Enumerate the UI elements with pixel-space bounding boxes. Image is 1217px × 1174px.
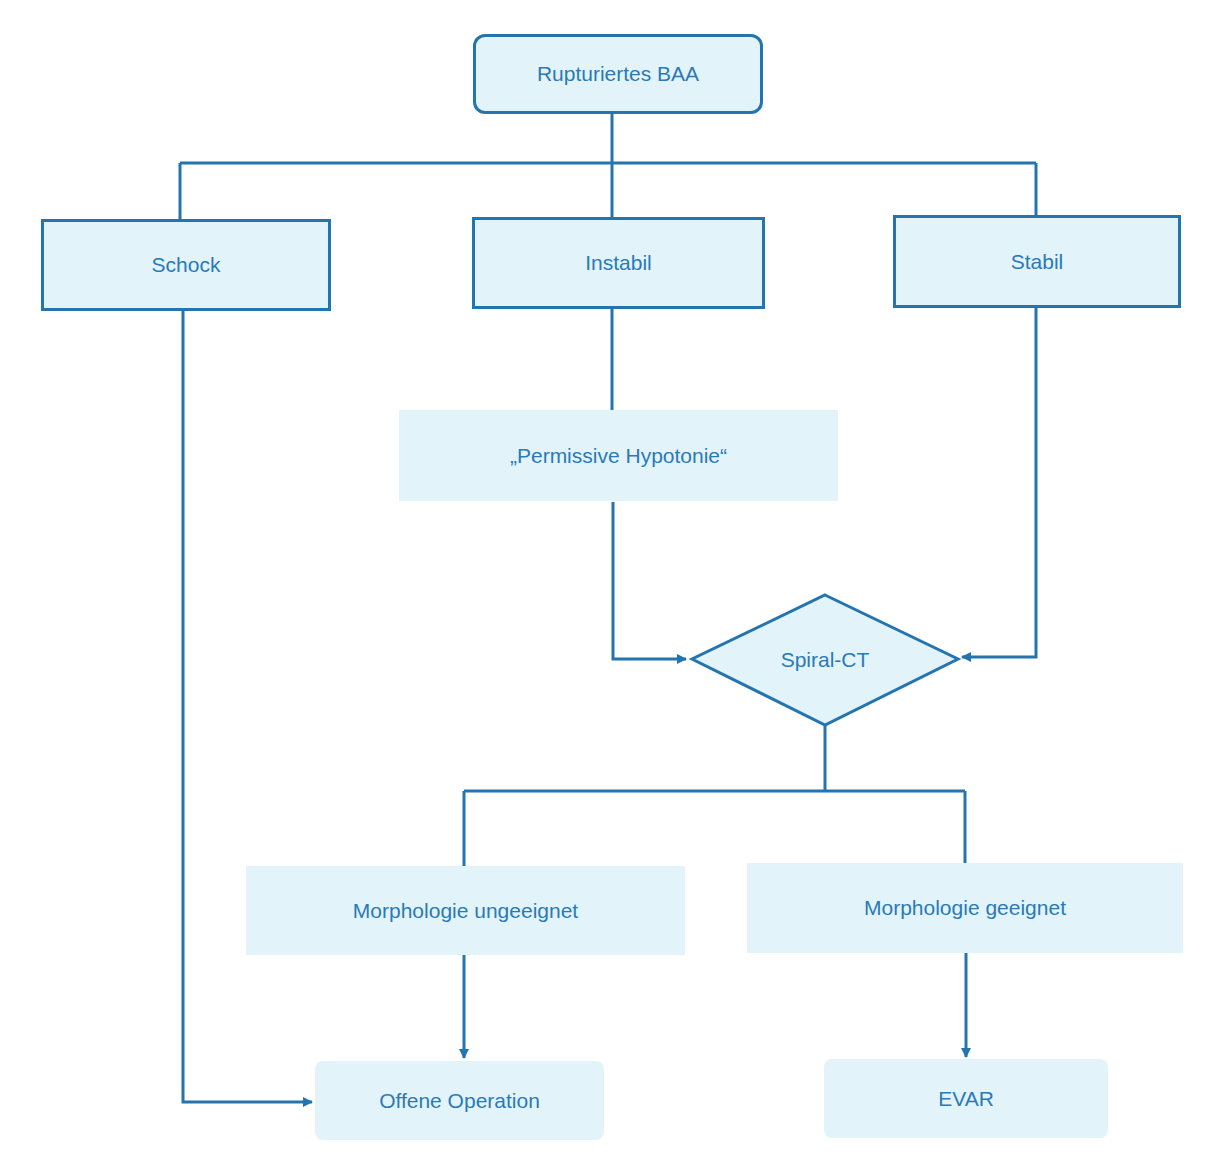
node-evar: EVAR xyxy=(824,1059,1108,1138)
node-label: Schock xyxy=(152,253,221,277)
edge-stabil-spiralct xyxy=(962,307,1036,657)
node-permissive-hypotonie: „Permissive Hypotonie“ xyxy=(399,410,838,501)
edge-schock-offeneop xyxy=(183,310,312,1102)
node-label: EVAR xyxy=(938,1087,994,1111)
node-label: Morphologie geeignet xyxy=(864,896,1066,920)
edge-permissive-spiralct xyxy=(613,502,686,659)
node-rupturiertes-baa: Rupturiertes BAA xyxy=(473,34,763,114)
node-label: Stabil xyxy=(1011,250,1064,274)
node-schock: Schock xyxy=(41,219,331,311)
node-label: Offene Operation xyxy=(379,1089,540,1113)
node-morphologie-ungeeignet: Morphologie ungeeignet xyxy=(246,866,685,955)
node-instabil: Instabil xyxy=(472,217,765,309)
node-label: Morphologie ungeeignet xyxy=(353,899,578,923)
node-label: Instabil xyxy=(585,251,652,275)
node-stabil: Stabil xyxy=(893,215,1181,308)
node-morphologie-geeignet: Morphologie geeignet xyxy=(747,863,1183,953)
node-spiral-ct: Spiral-CT xyxy=(692,595,958,725)
node-label: Rupturiertes BAA xyxy=(537,62,699,86)
node-label: „Permissive Hypotonie“ xyxy=(510,444,727,468)
node-label: Spiral-CT xyxy=(781,648,870,672)
node-offene-operation: Offene Operation xyxy=(315,1061,604,1140)
connector-lines xyxy=(0,0,1217,1174)
